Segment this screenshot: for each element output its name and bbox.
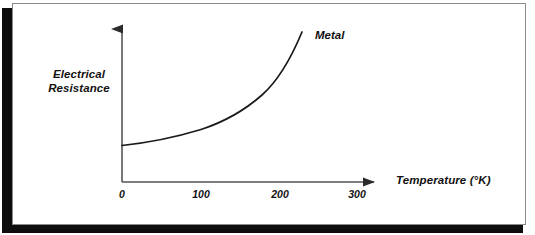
- y-axis-title-line1: Electrical: [53, 68, 105, 80]
- series-label-metal: Metal: [315, 29, 344, 41]
- x-tick-label-300: 300: [337, 188, 377, 200]
- x-tick-label-200: 200: [260, 188, 300, 200]
- y-axis-title-line2: Resistance: [48, 82, 110, 94]
- x-axis-title: Temperature (°K): [396, 174, 491, 188]
- x-tick-label-0: 0: [102, 188, 142, 200]
- x-tick-label-100: 100: [181, 188, 221, 200]
- y-axis-title: ElectricalResistance: [38, 68, 120, 95]
- figure-root: ElectricalResistance Temperature (°K) Me…: [0, 0, 535, 235]
